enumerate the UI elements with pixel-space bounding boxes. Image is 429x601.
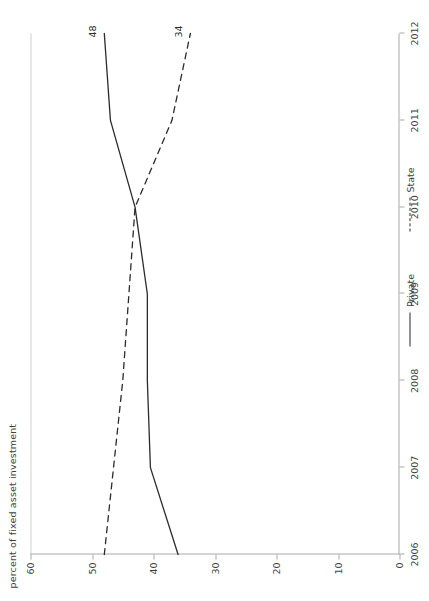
y-axis-label: percent of fixed asset investment [6, 423, 17, 588]
y-tick-label: 10 [332, 562, 343, 574]
x-tick [399, 466, 404, 467]
chart-legend: PrivateState [404, 33, 426, 554]
data-point-label: 34 [172, 25, 183, 37]
plot-area: 0102030405060 20062007200820092010201120… [30, 33, 399, 554]
rotated-figure-wrapper: percent of fixed asset investment 010203… [0, 0, 429, 601]
y-tick-label: 20 [271, 562, 282, 574]
x-tick [399, 553, 404, 554]
legend-item-private[interactable]: Private [404, 273, 415, 345]
legend-item-state[interactable]: State [404, 167, 415, 231]
chart-canvas: percent of fixed asset investment 010203… [0, 0, 429, 601]
y-tick-label: 30 [209, 562, 220, 574]
series-line-private [104, 33, 178, 554]
y-tick [92, 554, 93, 559]
y-tick [399, 554, 400, 559]
x-tick [399, 379, 404, 380]
legend-swatch-dashed [409, 197, 410, 231]
y-tick [338, 554, 339, 559]
y-tick-label: 60 [25, 562, 36, 574]
data-point-label: 48 [86, 25, 97, 37]
line-chart-figure: percent of fixed asset investment 010203… [0, 0, 429, 601]
y-tick-label: 0 [394, 562, 405, 568]
legend-swatch-solid [409, 312, 410, 346]
y-tick-label: 40 [148, 562, 159, 574]
y-tick [153, 554, 154, 559]
y-tick-label: 50 [86, 562, 97, 574]
x-tick [399, 206, 404, 207]
series-lines [30, 33, 399, 554]
y-tick [30, 554, 31, 559]
x-tick [399, 119, 404, 120]
legend-label: State [404, 167, 415, 192]
legend-label: Private [404, 273, 415, 306]
y-tick [215, 554, 216, 559]
x-tick [399, 293, 404, 294]
y-tick [276, 554, 277, 559]
x-tick [399, 32, 404, 33]
